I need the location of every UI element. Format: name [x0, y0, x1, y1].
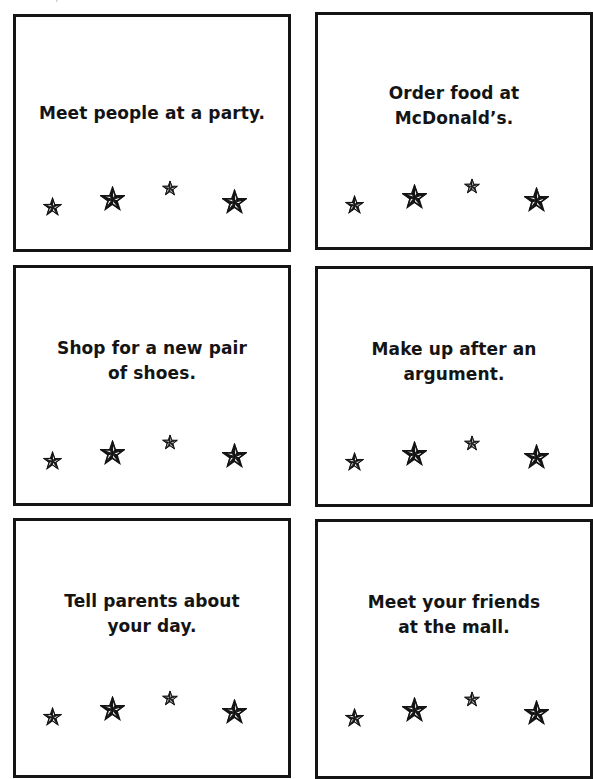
clipped-text-fragment — [56, 0, 70, 2]
nautical-star-icon — [464, 178, 480, 194]
nautical-star-icon — [100, 696, 125, 721]
nautical-star-icon — [345, 452, 364, 471]
nautical-star-icon — [402, 184, 427, 209]
card-text-line: Meet people at a party. — [26, 101, 278, 126]
nautical-star-icon — [162, 180, 178, 196]
nautical-star-icon — [402, 441, 427, 466]
nautical-star-icon — [43, 197, 62, 216]
nautical-star-icon — [524, 700, 549, 725]
card-text-line: McDonald’s. — [328, 106, 580, 131]
card-text-line: Order food at — [328, 81, 580, 106]
nautical-star-icon — [464, 435, 480, 451]
nautical-star-icon — [345, 195, 364, 214]
nautical-star-icon — [222, 443, 247, 468]
nautical-star-icon — [345, 708, 364, 727]
card-text-line: at the mall. — [328, 615, 580, 640]
card-text: Tell parents about your day. — [26, 589, 278, 639]
card-text-line: Tell parents about — [26, 589, 278, 614]
card-text: Meet your friends at the mall. — [328, 590, 580, 640]
nautical-star-icon — [162, 690, 178, 706]
card-text: Order food at McDonald’s. — [328, 81, 580, 131]
card-text-line: argument. — [328, 362, 580, 387]
nautical-star-icon — [100, 440, 125, 465]
activity-card-4[interactable]: Make up after an argument. — [315, 266, 593, 507]
card-text: Make up after an argument. — [328, 337, 580, 387]
activity-card-1[interactable]: Meet people at a party. — [13, 14, 291, 252]
card-text: Meet people at a party. — [26, 101, 278, 126]
nautical-star-icon — [222, 189, 247, 214]
nautical-star-icon — [162, 434, 178, 450]
activity-card-3[interactable]: Shop for a new pair of shoes. — [13, 265, 291, 506]
card-text-line: your day. — [26, 614, 278, 639]
activity-card-5[interactable]: Tell parents about your day. — [13, 518, 291, 778]
activity-card-6[interactable]: Meet your friends at the mall. — [315, 519, 593, 779]
card-text-line: of shoes. — [26, 361, 278, 386]
card-text-line: Meet your friends — [328, 590, 580, 615]
card-text: Shop for a new pair of shoes. — [26, 336, 278, 386]
nautical-star-icon — [524, 444, 549, 469]
activity-card-2[interactable]: Order food at McDonald’s. — [315, 12, 593, 250]
nautical-star-icon — [464, 691, 480, 707]
nautical-star-icon — [222, 699, 247, 724]
nautical-star-icon — [100, 186, 125, 211]
nautical-star-icon — [43, 707, 62, 726]
nautical-star-icon — [402, 697, 427, 722]
card-text-line: Shop for a new pair — [26, 336, 278, 361]
nautical-star-icon — [43, 451, 62, 470]
nautical-star-icon — [524, 187, 549, 212]
card-text-line: Make up after an — [328, 337, 580, 362]
